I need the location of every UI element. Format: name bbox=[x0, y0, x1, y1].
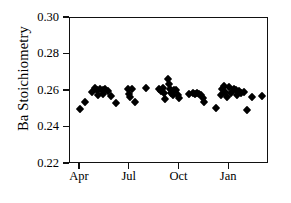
y-tick-label: 0.26 bbox=[25, 84, 59, 97]
y-tick-label: 0.22 bbox=[25, 157, 59, 170]
y-tick-mark bbox=[63, 126, 69, 127]
y-tick-mark bbox=[63, 16, 69, 17]
x-tick-label: Oct bbox=[156, 170, 200, 183]
y-tick-label: 0.28 bbox=[25, 47, 59, 60]
x-tick-label: Jan bbox=[206, 170, 250, 183]
y-tick-mark bbox=[63, 89, 69, 90]
x-tick-label: Jul bbox=[107, 170, 151, 183]
scatter-chart-figure: Ba Stoichiometry 0.220.240.260.280.30 Ap… bbox=[0, 0, 291, 203]
x-tick-label: Apr bbox=[57, 170, 101, 183]
y-tick-label: 0.24 bbox=[25, 120, 59, 133]
y-tick-mark bbox=[63, 162, 69, 163]
y-tick-mark bbox=[63, 53, 69, 54]
y-tick-label: 0.30 bbox=[25, 11, 59, 24]
